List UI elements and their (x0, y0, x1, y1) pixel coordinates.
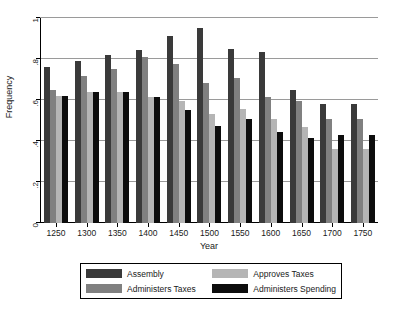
bar-group (228, 18, 252, 223)
x-tick-label: 1450 (162, 228, 196, 238)
bar-group (351, 18, 375, 223)
bar (215, 126, 221, 223)
x-tick-label: 1750 (346, 228, 380, 238)
plot-area (40, 18, 378, 223)
x-tick-label: 1500 (192, 228, 226, 238)
bar-chart-figure: Frequency 0.2.4.6.81 1250130013501400145… (0, 0, 417, 310)
bar (185, 110, 191, 223)
bar (154, 97, 160, 223)
x-tick-mark (56, 223, 57, 227)
legend-entry: Administers Spending (212, 284, 336, 294)
y-tick-label: .6 (32, 100, 40, 107)
legend: AssemblyApproves TaxesAdministers TaxesA… (80, 263, 342, 299)
legend-label: Administers Taxes (127, 284, 196, 294)
legend-label: Approves Taxes (253, 269, 313, 279)
bar-group (136, 18, 160, 223)
legend-label: Administers Spending (253, 284, 336, 294)
y-tick-label: 0 (32, 223, 40, 227)
bar-group (290, 18, 314, 223)
legend-entry: Approves Taxes (212, 269, 336, 279)
legend-entry: Administers Taxes (86, 284, 208, 294)
legend-swatch (212, 269, 248, 278)
bar (246, 119, 252, 223)
y-tick-label: .4 (32, 141, 40, 148)
bar-groups (40, 18, 378, 223)
x-tick-mark (240, 223, 241, 227)
y-axis-label: Frequency (4, 32, 14, 162)
y-tick-label: .2 (32, 182, 40, 189)
legend-swatch (86, 284, 122, 293)
x-tick-label: 1600 (254, 228, 288, 238)
bar (308, 138, 314, 223)
x-tick-mark (209, 223, 210, 227)
legend-swatch (86, 269, 122, 278)
x-tick-mark (332, 223, 333, 227)
bar-group (197, 18, 221, 223)
bar-group (105, 18, 129, 223)
legend-entry: Assembly (86, 269, 208, 279)
x-tick-label: 1700 (315, 228, 349, 238)
x-tick-label: 1250 (39, 228, 73, 238)
legend-swatch (212, 284, 248, 293)
bar (123, 92, 129, 223)
bar (369, 135, 375, 223)
bar (62, 96, 68, 223)
x-tick-label: 1400 (131, 228, 165, 238)
bar (338, 135, 344, 223)
bar-group (167, 18, 191, 223)
bar-group (75, 18, 99, 223)
x-axis-tick-labels: 1250130013501400145015001550160016501700… (40, 228, 378, 240)
x-tick-mark (302, 223, 303, 227)
bar-group (259, 18, 283, 223)
x-tick-label: 1550 (223, 228, 257, 238)
x-tick-label: 1350 (100, 228, 134, 238)
x-tick-mark (87, 223, 88, 227)
bar (93, 92, 99, 223)
x-tick-label: 1650 (285, 228, 319, 238)
bar-group (320, 18, 344, 223)
x-axis-label: Year (40, 241, 378, 251)
x-axis-tick-marks (40, 223, 378, 227)
x-tick-mark (148, 223, 149, 227)
bar (277, 132, 283, 223)
x-tick-mark (179, 223, 180, 227)
y-tick-label: 1 (32, 18, 40, 22)
legend-label: Assembly (127, 269, 164, 279)
y-tick-label: .8 (32, 59, 40, 66)
x-tick-mark (363, 223, 364, 227)
x-tick-mark (271, 223, 272, 227)
x-tick-mark (117, 223, 118, 227)
bar-group (44, 18, 68, 223)
y-axis-ticks: 0.2.4.6.81 (18, 18, 36, 223)
x-tick-label: 1300 (70, 228, 104, 238)
